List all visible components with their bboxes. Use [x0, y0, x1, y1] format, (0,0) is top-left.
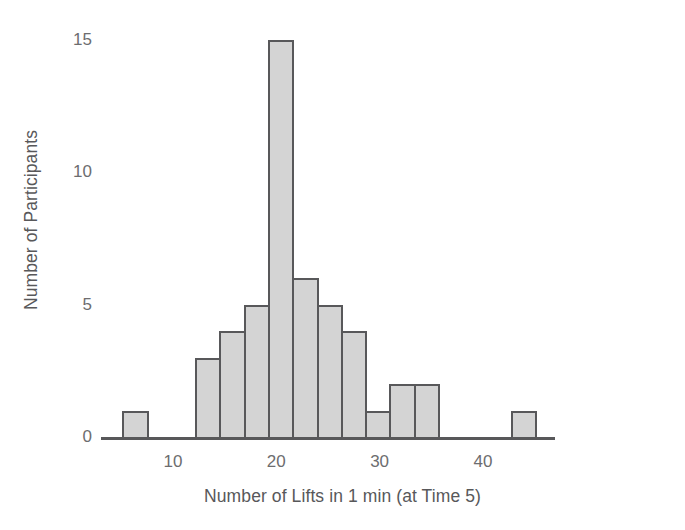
histogram-bar	[341, 331, 367, 439]
x-tick-label: 40	[453, 452, 513, 472]
histogram-bar	[122, 411, 148, 439]
y-axis-title: Number of Participants	[14, 70, 48, 370]
histogram-bar	[414, 384, 440, 439]
histogram-bar	[195, 358, 221, 439]
y-tick-label: 0	[32, 427, 92, 447]
histogram-figure: 051015 10203040 Number of Participants N…	[0, 0, 685, 530]
histogram-bar	[219, 331, 245, 439]
plot-area	[0, 0, 685, 530]
x-tick-label: 20	[246, 452, 306, 472]
histogram-bar	[389, 384, 415, 439]
y-tick-label: 15	[32, 30, 92, 50]
x-tick-label: 30	[350, 452, 410, 472]
histogram-bar	[365, 411, 391, 439]
x-axis-title: Number of Lifts in 1 min (at Time 5)	[0, 486, 685, 507]
histogram-bar	[317, 305, 343, 439]
histogram-bar	[511, 411, 537, 439]
histogram-bar	[268, 40, 294, 439]
histogram-bar	[292, 278, 318, 439]
histogram-bar	[244, 305, 270, 439]
x-tick-label: 10	[143, 452, 203, 472]
